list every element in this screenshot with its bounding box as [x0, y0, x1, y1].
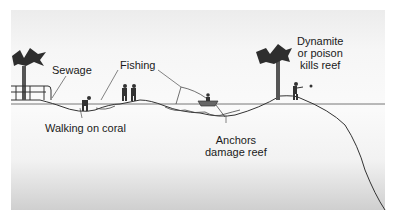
fishing-line	[176, 87, 181, 104]
label-anchors-line2: damage reef	[205, 146, 267, 158]
callout-lines	[52, 70, 226, 123]
label-anchors: Anchors damage reef	[205, 134, 267, 158]
label-dynamite-line1: Dynamite	[297, 35, 343, 47]
person-throwing-icon	[293, 82, 313, 100]
label-fishing: Fishing	[120, 59, 155, 71]
label-sewage: Sewage	[52, 64, 92, 76]
palm-tree-right-icon	[256, 44, 292, 100]
label-walking-on-coral: Walking on coral	[45, 122, 126, 134]
label-dynamite-line3: kills reef	[297, 59, 343, 71]
sewage-pipe-icon	[11, 86, 51, 100]
label-dynamite-line2: or poison	[297, 47, 343, 59]
label-dynamite: Dynamite or poison kills reef	[297, 35, 343, 71]
fishing-rod-line	[181, 87, 206, 98]
reef-rubble	[165, 107, 240, 116]
people-fishing-icon	[122, 84, 136, 101]
reef-cross-section	[0, 0, 399, 217]
person-walking-icon	[82, 96, 91, 111]
label-anchors-line1: Anchors	[205, 134, 267, 146]
